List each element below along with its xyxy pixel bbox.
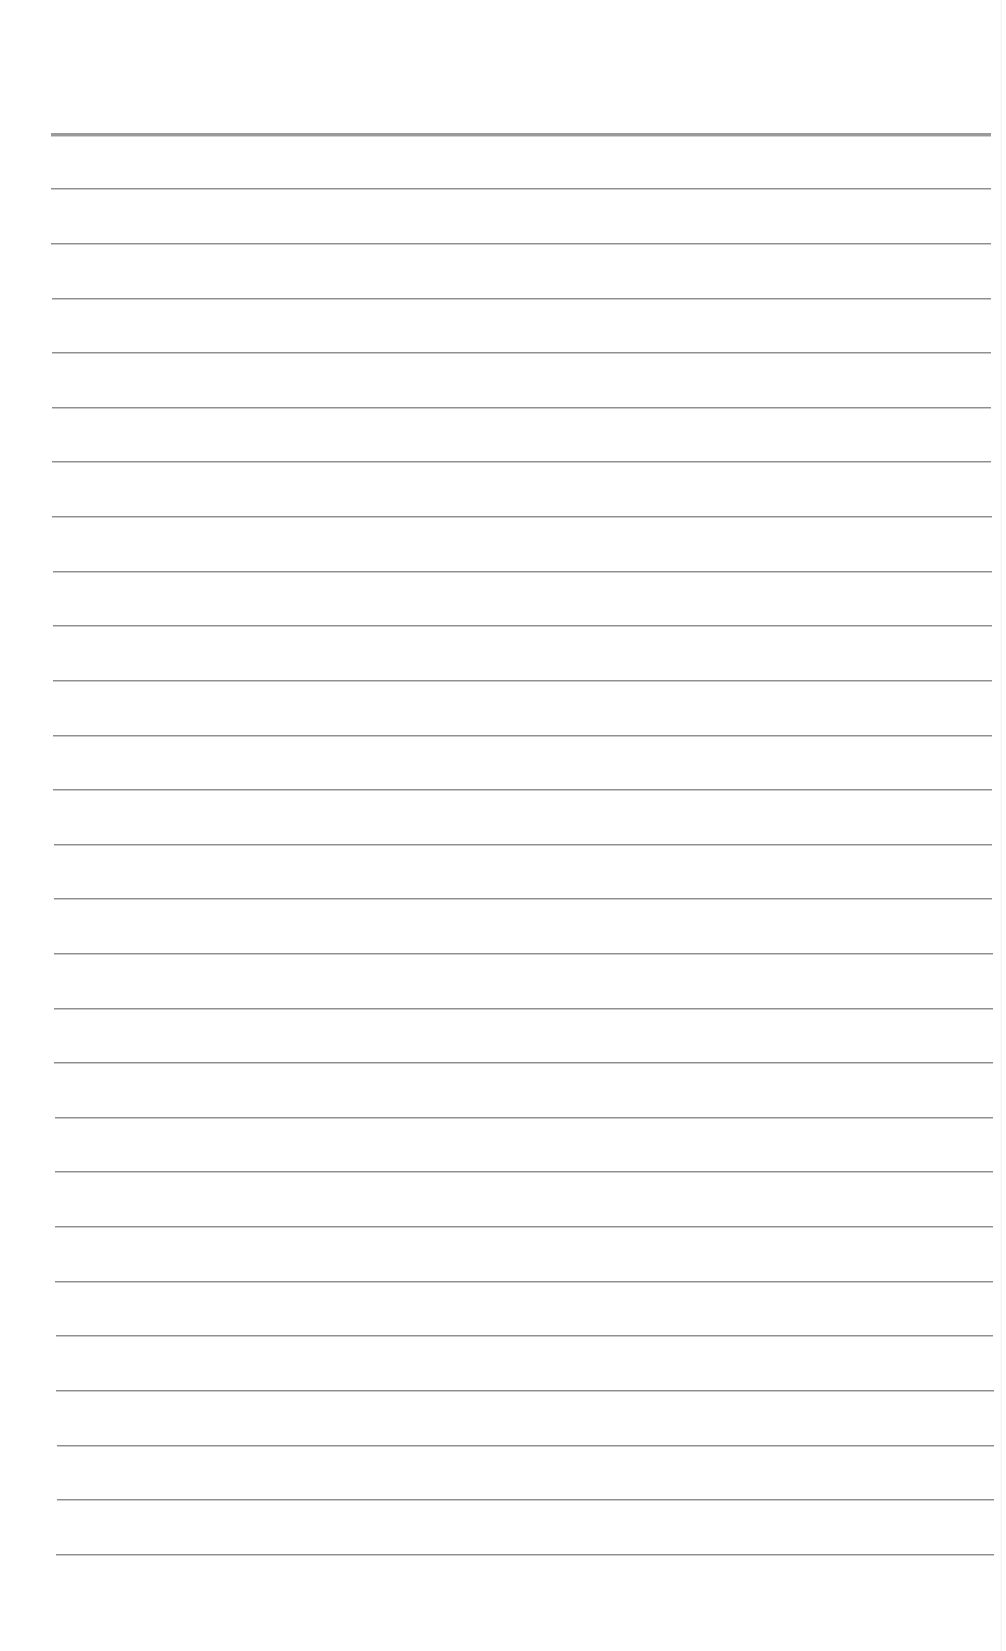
- ruled-line: [53, 625, 992, 627]
- ruled-line: [55, 1117, 993, 1119]
- ruled-line: [54, 1062, 993, 1064]
- ruled-line: [53, 680, 992, 682]
- ruled-line: [51, 243, 991, 245]
- ruled-line: [54, 1008, 993, 1010]
- ruled-line: [54, 844, 992, 846]
- header-rule: [51, 133, 991, 137]
- ruled-line: [53, 735, 992, 737]
- ruled-line: [51, 188, 991, 190]
- ruled-line: [54, 953, 993, 955]
- ruled-line: [56, 1335, 993, 1337]
- ruled-line: [57, 1445, 994, 1447]
- ruled-line: [53, 789, 992, 791]
- ruled-line: [52, 461, 991, 463]
- ruled-line: [56, 1390, 994, 1392]
- page-edge-shadow: [1000, 0, 1002, 1651]
- ruled-line: [52, 298, 991, 300]
- ruled-line: [54, 898, 992, 900]
- lined-paper-page: [0, 0, 1006, 1651]
- ruled-line: [53, 571, 992, 573]
- ruled-line: [56, 1554, 994, 1556]
- ruled-line: [52, 352, 991, 354]
- ruled-line: [52, 516, 992, 518]
- ruled-line: [55, 1281, 993, 1283]
- ruled-line: [55, 1226, 993, 1228]
- ruled-line: [55, 1171, 993, 1173]
- ruled-line: [57, 1499, 994, 1501]
- ruled-line: [52, 407, 991, 409]
